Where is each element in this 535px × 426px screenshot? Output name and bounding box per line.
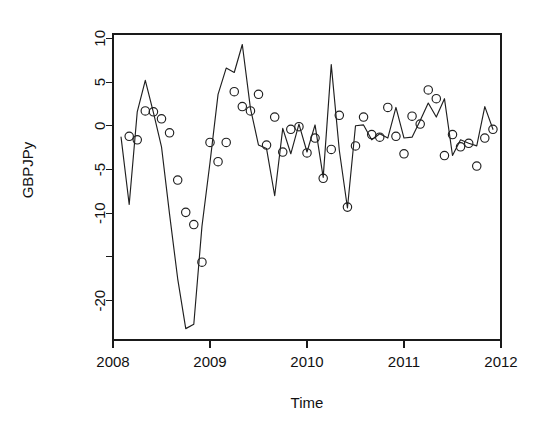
plot-background [0,0,535,426]
y-tick-label: 5 [92,78,109,86]
x-tick-label: 2010 [290,353,323,370]
y-tick-label: -5 [92,163,109,176]
y-axis-title: GBPJPy [19,141,36,198]
chart-container: 1050-5-10-20 20082009201020112012 Time G… [0,0,535,426]
y-tick-label: -20 [92,290,109,312]
x-axis-title: Time [291,394,324,411]
x-tick-label: 2008 [96,353,129,370]
y-tick-label: 10 [92,30,109,47]
x-tick-label: 2012 [484,353,517,370]
y-tick-label: -10 [92,202,109,224]
x-tick-label: 2011 [388,353,420,370]
x-tick-label: 2009 [193,353,226,370]
time-series-plot: 1050-5-10-20 20082009201020112012 Time G… [0,0,535,426]
y-tick-label: 0 [92,122,109,130]
